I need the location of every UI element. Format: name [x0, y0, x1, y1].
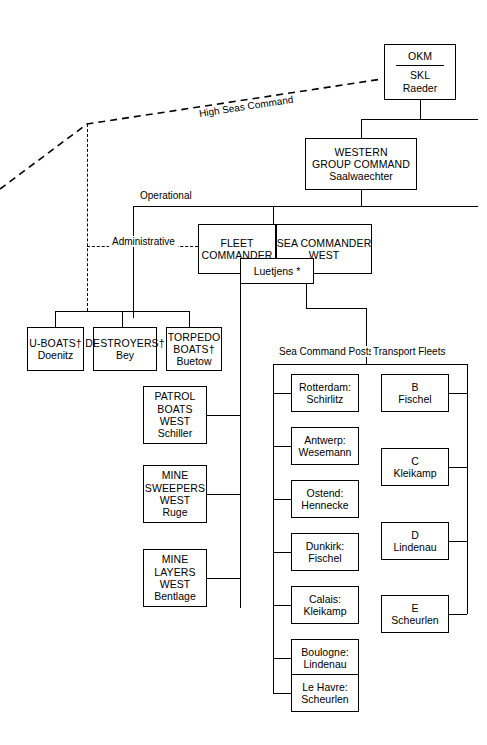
post-0-line2: Schirlitz	[307, 393, 344, 405]
force-0-line1: U-BOATS†	[29, 337, 82, 349]
west-1-line4: Ruge	[162, 506, 187, 518]
connector-west-1	[207, 494, 241, 495]
wgc-line1: WESTERN	[334, 146, 387, 158]
post-1-line2: Wesemann	[299, 446, 352, 458]
wgc-line3: Saalwaechter	[329, 170, 393, 182]
post-4-line1: Calais:	[309, 593, 341, 605]
header-transport-fleets: Transport Fleets	[371, 346, 447, 357]
node-post-dunkirk: Dunkirk: Fischel	[291, 533, 359, 571]
node-force-torpedo-boats: TORPEDO BOATS† Buetow	[166, 327, 222, 371]
luetjens-label: Luetjens *	[254, 265, 301, 277]
node-patrol-boats-west: PATROL BOATS WEST Schiller	[143, 386, 207, 444]
west-0-line3: WEST	[160, 415, 191, 427]
node-post-rotterdam: Rotterdam: Schirlitz	[291, 374, 359, 412]
connector-post-1	[273, 446, 291, 447]
connector-fleet-0	[449, 393, 467, 394]
connector-bus-to-sea-cmd-west	[273, 206, 274, 224]
connector-post-0	[273, 393, 291, 394]
connector-scw-jog	[306, 308, 366, 309]
fleet-0-line1: B	[411, 381, 418, 393]
node-post-antwerp: Antwerp: Wesemann	[291, 427, 359, 465]
node-fleet-c: C Kleikamp	[381, 448, 449, 486]
node-okm-line1: OKM	[408, 50, 432, 62]
node-fleet-e: E Scheurlen	[381, 595, 449, 633]
okm-divider	[396, 65, 444, 66]
post-2-line1: Ostend:	[307, 487, 344, 499]
node-mine-layers-west: MINE LAYERS WEST Bentlage	[143, 549, 207, 607]
connector-forces-stub-1	[55, 311, 56, 327]
connector-post-4	[273, 605, 291, 606]
post-4-line2: Kleikamp	[303, 605, 346, 617]
west-1-line1: MINE	[162, 469, 189, 481]
connector-fleet-2	[449, 541, 467, 542]
sea-cmd-west-line1: SEA COMMANDER	[277, 237, 372, 249]
connector-post-6	[273, 693, 291, 694]
connector-forces-stub-2	[122, 311, 123, 327]
fleet-2-line1: D	[411, 529, 419, 541]
node-post-le-havre: Le Havre: Scheurlen	[291, 674, 359, 712]
fleet-3-line1: E	[411, 602, 418, 614]
post-2-line2: Hennecke	[301, 499, 348, 511]
west-0-line4: Schiller	[158, 427, 192, 439]
connector-wgc-bus	[133, 206, 478, 207]
connector-west-2	[207, 578, 241, 579]
fleet-cmd-line1: FLEET	[220, 237, 253, 249]
west-2-line2: LAYERS	[154, 566, 195, 578]
node-force-u-boats: U-BOATS† Doenitz	[27, 327, 84, 371]
west-1-line2: SWEEPERS	[145, 482, 205, 494]
post-5-line1: Boulogne:	[301, 646, 348, 658]
fleet-2-line2: Lindenau	[393, 541, 436, 553]
fleet-0-line2: Fischel	[398, 393, 431, 405]
west-0-line2: BOATS	[157, 403, 192, 415]
force-2-line1: TORPEDO	[168, 331, 220, 343]
label-administrative: Administrative	[109, 236, 178, 247]
connector-post-5	[273, 658, 291, 659]
post-1-line1: Antwerp:	[304, 434, 345, 446]
force-1-line2: Bey	[116, 349, 134, 361]
connector-sea-posts-spine	[273, 364, 274, 693]
node-force-destroyers: DESTROYERS† Bey	[93, 327, 157, 371]
node-okm: OKM SKL Raeder	[384, 44, 456, 100]
connector-fleet-3	[449, 614, 467, 615]
fleet-1-line1: C	[411, 455, 419, 467]
connector-forces-stub-3	[189, 311, 190, 327]
connector-transport-spine	[467, 364, 468, 614]
post-5-line2: Lindenau	[303, 658, 346, 670]
west-2-line3: WEST	[160, 578, 191, 590]
node-post-ostend: Ostend: Hennecke	[291, 480, 359, 518]
west-2-line4: Bentlage	[154, 590, 195, 602]
node-post-calais: Calais: Kleikamp	[291, 586, 359, 624]
post-6-line1: Le Havre:	[302, 681, 348, 693]
force-2-line3: Buetow	[176, 355, 211, 367]
wgc-line2: GROUP COMMAND	[312, 158, 410, 170]
org-chart-canvas: OKM SKL Raeder WESTERN GROUP COMMAND Saa…	[0, 0, 487, 745]
node-western-group-command: WESTERN GROUP COMMAND Saalwaechter	[305, 138, 417, 190]
post-0-line1: Rotterdam:	[299, 381, 351, 393]
post-3-line1: Dunkirk:	[306, 540, 345, 552]
force-0-line2: Doenitz	[38, 349, 74, 361]
header-sea-command-posts: Sea Command Posts	[277, 346, 376, 357]
node-fleet-d: D Lindenau	[381, 522, 449, 560]
node-post-boulogne: Boulogne: Lindenau	[291, 639, 359, 677]
connector-columns-bus	[273, 364, 467, 365]
west-0-line1: PATROL	[154, 390, 195, 402]
node-okm-line3: Raeder	[403, 82, 437, 94]
west-1-line3: WEST	[160, 494, 191, 506]
force-1-line1: DESTROYERS†	[85, 337, 164, 349]
west-2-line1: MINE	[162, 553, 189, 565]
connector-post-3	[273, 552, 291, 553]
connector-fleet-1	[449, 467, 467, 468]
post-6-line2: Scheurlen	[301, 693, 348, 705]
connector-bus-to-fleet-cmd	[133, 206, 134, 318]
fleet-1-line2: Kleikamp	[393, 467, 436, 479]
node-luetjens: Luetjens *	[240, 258, 314, 284]
node-mine-sweepers-west: MINE SWEEPERS WEST Ruge	[143, 465, 207, 523]
connector-post-2	[273, 499, 291, 500]
connector-west-units-spine	[240, 284, 241, 608]
post-3-line2: Fischel	[308, 552, 341, 564]
fleet-3-line2: Scheurlen	[391, 614, 438, 626]
connector-west-0	[207, 415, 241, 416]
node-fleet-b: B Fischel	[381, 374, 449, 412]
force-2-line2: BOATS†	[173, 343, 214, 355]
node-okm-line2: SKL	[410, 69, 430, 81]
